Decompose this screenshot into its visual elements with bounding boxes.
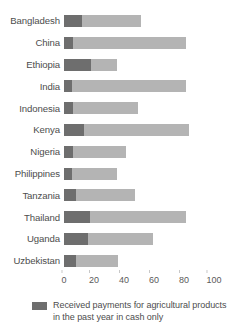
bar-track-tanzania [64, 184, 240, 206]
x-axis-tick-label: 80 [179, 275, 189, 285]
chart-legend: Received payments for agricultural produ… [32, 300, 232, 323]
bar-segment-cash-only-bangladesh [64, 15, 82, 27]
table-row: Thailand [0, 206, 240, 228]
bar-segment-other-uganda [88, 233, 153, 245]
bar-segment-other-india [72, 80, 186, 92]
tick-mark-icon [119, 270, 120, 273]
table-row: India [0, 75, 240, 97]
tick-mark-icon [206, 270, 207, 273]
bar-segment-cash-only-indonesia [64, 102, 73, 114]
bar-china [64, 37, 186, 49]
x-axis-tick-1: 20 [89, 274, 99, 286]
bar-nigeria [64, 146, 126, 158]
category-label-uganda: Uganda [0, 233, 64, 244]
bar-segment-other-bangladesh [82, 15, 141, 27]
table-row: Uganda [0, 228, 240, 250]
table-row: Kenya [0, 119, 240, 141]
bar-kenya [64, 124, 189, 136]
x-axis-tick-label: 40 [119, 275, 129, 285]
bar-segment-cash-only-philippines [64, 168, 72, 180]
bar-thailand [64, 211, 186, 223]
category-label-indonesia: Indonesia [0, 103, 64, 114]
bar-segment-cash-only-tanzania [64, 189, 76, 201]
bar-segment-other-china [73, 37, 186, 49]
bar-india [64, 80, 186, 92]
bar-segment-other-nigeria [73, 146, 126, 158]
tick-mark-icon [149, 270, 150, 273]
bar-segment-cash-only-india [64, 80, 72, 92]
legend-label: Received payments for agricultural produ… [53, 300, 232, 323]
tick-mark-icon [179, 270, 180, 273]
category-label-ethiopia: Ethiopia [0, 59, 64, 70]
bar-segment-cash-only-uzbekistan [64, 255, 76, 267]
bar-track-indonesia [64, 97, 240, 119]
table-row: Bangladesh [0, 10, 240, 32]
table-row: Indonesia [0, 97, 240, 119]
bar-track-ethiopia [64, 54, 240, 76]
x-axis-tick-4: 80 [179, 274, 189, 286]
bar-track-uganda [64, 228, 240, 250]
category-label-india: India [0, 81, 64, 92]
bar-indonesia [64, 102, 138, 114]
bar-segment-other-ethiopia [91, 59, 117, 71]
bar-track-kenya [64, 119, 240, 141]
x-axis-tick-2: 40 [119, 274, 129, 286]
bar-track-india [64, 75, 240, 97]
bar-segment-cash-only-ethiopia [64, 59, 91, 71]
category-label-tanzania: Tanzania [0, 190, 64, 201]
bar-segment-cash-only-kenya [64, 124, 84, 136]
x-axis-tick-3: 60 [149, 274, 159, 286]
x-axis: 0 20 40 60 80 100 [64, 274, 240, 290]
bar-ethiopia [64, 59, 117, 71]
table-row: Nigeria [0, 141, 240, 163]
table-row: Philippines [0, 163, 240, 185]
bar-philippines [64, 168, 117, 180]
bar-segment-cash-only-nigeria [64, 146, 73, 158]
x-axis-tick-0: 0 [61, 274, 66, 286]
plot-area: Bangladesh China Ethiopia [0, 10, 240, 272]
bar-track-nigeria [64, 141, 240, 163]
bar-segment-other-philippines [72, 168, 117, 180]
x-axis-tick-label: 100 [206, 275, 221, 285]
bar-track-thailand [64, 206, 240, 228]
bar-segment-other-tanzania [76, 189, 135, 201]
bar-track-bangladesh [64, 10, 240, 32]
category-label-kenya: Kenya [0, 124, 64, 135]
x-axis-tick-label: 0 [61, 275, 66, 285]
bar-segment-other-kenya [84, 124, 189, 136]
bar-segment-cash-only-china [64, 37, 73, 49]
bar-tanzania [64, 189, 135, 201]
bar-uzbekistan [64, 255, 118, 267]
bar-track-uzbekistan [64, 250, 240, 272]
bar-segment-other-indonesia [73, 102, 138, 114]
category-label-philippines: Philippines [0, 168, 64, 179]
bar-segment-other-thailand [90, 211, 186, 223]
table-row: Ethiopia [0, 54, 240, 76]
category-label-thailand: Thailand [0, 212, 64, 223]
bar-segment-other-uzbekistan [76, 255, 118, 267]
bar-track-china [64, 32, 240, 54]
tick-mark-icon [89, 270, 90, 273]
legend-swatch-dark-icon [32, 302, 47, 310]
bar-segment-cash-only-thailand [64, 211, 90, 223]
table-row: China [0, 32, 240, 54]
bar-uganda [64, 233, 153, 245]
table-row: Uzbekistan [0, 250, 240, 272]
tick-mark-icon [61, 270, 62, 273]
x-axis-tick-5: 100 [206, 274, 221, 286]
category-label-china: China [0, 37, 64, 48]
category-label-bangladesh: Bangladesh [0, 15, 64, 26]
bar-track-philippines [64, 163, 240, 185]
x-axis-tick-label: 60 [149, 275, 159, 285]
category-label-nigeria: Nigeria [0, 146, 64, 157]
horizontal-stacked-bar-chart: Bangladesh China Ethiopia [0, 0, 240, 333]
table-row: Tanzania [0, 184, 240, 206]
x-axis-tick-label: 20 [89, 275, 99, 285]
category-label-uzbekistan: Uzbekistan [0, 255, 64, 266]
bar-segment-cash-only-uganda [64, 233, 88, 245]
bar-bangladesh [64, 15, 141, 27]
